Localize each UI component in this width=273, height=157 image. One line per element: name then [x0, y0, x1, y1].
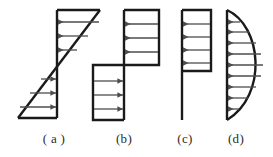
- caption-panel-c: (c): [167, 131, 203, 147]
- caption-panel-b: (b): [104, 131, 144, 147]
- caption-panel-d: (d): [218, 131, 254, 147]
- caption-row: ( a ) (b) (c) (d): [0, 128, 273, 153]
- figure-root: ( a ) (b) (c) (d): [0, 0, 273, 157]
- caption-panel-a: ( a ): [34, 131, 74, 147]
